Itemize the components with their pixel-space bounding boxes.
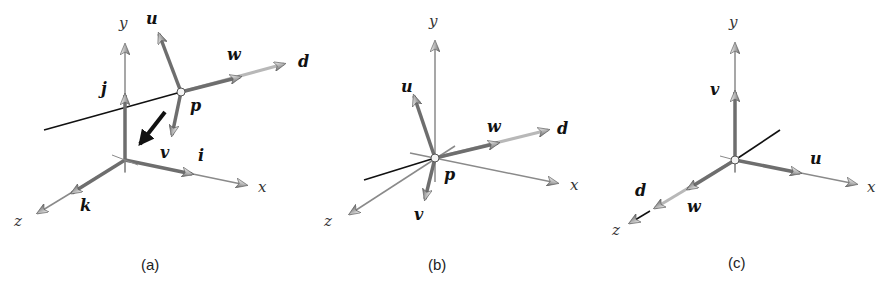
panel-c: y x z v u w d (c) <box>611 13 876 271</box>
point-p <box>177 88 185 96</box>
u-label: u <box>146 9 158 28</box>
caption-a: (a) <box>141 256 159 273</box>
p-label: p <box>444 165 455 184</box>
w-label: w <box>227 45 242 64</box>
x-axis-label: x <box>258 178 267 196</box>
w-vector <box>181 77 240 92</box>
y-axis-label: y <box>728 13 738 31</box>
j-label: j <box>98 79 107 98</box>
w-vector <box>688 160 735 189</box>
i-label: i <box>198 146 204 165</box>
w-label: w <box>487 117 502 136</box>
x-axis-label: x <box>570 176 579 194</box>
k-vector <box>72 160 125 193</box>
k-label: k <box>80 196 91 215</box>
v-label: v <box>414 205 424 224</box>
origin-point <box>731 156 739 164</box>
caption-c: (c) <box>728 254 746 271</box>
v-vector <box>172 92 181 135</box>
line-through-p <box>364 158 435 180</box>
u-vector <box>159 34 181 92</box>
w-label: w <box>687 197 702 216</box>
w-vector <box>435 143 498 158</box>
line-through-p <box>44 92 181 130</box>
v-label: v <box>710 80 720 99</box>
u-label: u <box>810 149 822 168</box>
d-label: d <box>635 181 646 200</box>
y-axis-label: y <box>118 14 128 32</box>
z-axis-label: z <box>323 212 332 230</box>
z-axis-label: z <box>13 212 22 230</box>
panel-b: y x z u v w d p (b) <box>323 12 579 273</box>
u-label: u <box>401 77 413 96</box>
caption-b: (b) <box>428 256 446 273</box>
translation-arrow <box>140 112 165 144</box>
z-axis-label: z <box>611 221 620 239</box>
p-label: p <box>190 96 201 115</box>
u-vector <box>414 96 435 158</box>
v-label: v <box>160 143 170 162</box>
d-label: d <box>557 119 568 138</box>
d-label: d <box>298 52 309 71</box>
x-axis-label: x <box>867 178 876 196</box>
z-axis <box>630 211 650 223</box>
y-axis-label: y <box>428 12 438 30</box>
point-p <box>431 154 439 162</box>
i-vector <box>125 160 192 174</box>
figure-canvas: y x z j i k u v w d p (a) y x z u v w <box>0 0 890 287</box>
panel-a: y x z j i k u v w d p (a) <box>13 9 309 273</box>
line-through-origin <box>735 130 780 160</box>
u-vector <box>735 160 800 173</box>
